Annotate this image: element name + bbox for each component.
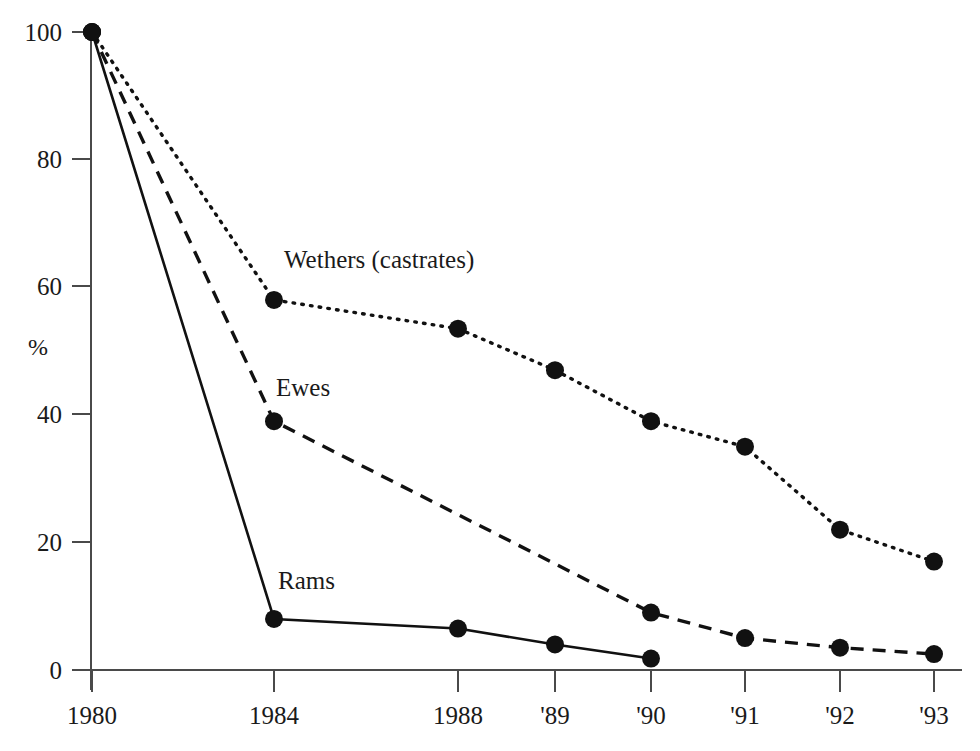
data-point-marker	[642, 650, 660, 668]
data-point-marker	[925, 645, 943, 663]
y-tick-label-100: 100	[25, 19, 63, 46]
x-tick-label-91: '91	[730, 702, 760, 729]
series-rams	[83, 23, 660, 668]
data-point-marker	[449, 320, 467, 338]
data-point-marker	[546, 361, 564, 379]
x-tick-label-1984: 1984	[249, 702, 300, 729]
data-point-marker	[449, 620, 467, 638]
y-tick-label-0: 0	[50, 657, 63, 684]
x-tick-label-1980: 1980	[67, 702, 117, 729]
y-axis-ticks	[72, 32, 91, 670]
x-tick-label-1988: 1988	[433, 702, 483, 729]
data-point-marker	[831, 521, 849, 539]
chart-figure: 100 80 60 40 20 0 % 1980 1984 1988 '89 '…	[0, 0, 980, 751]
series-line	[92, 32, 651, 659]
series-ewes	[83, 23, 943, 663]
x-axis-tick-labels: 1980 1984 1988 '89 '90 '91 '92 '93	[67, 702, 949, 729]
series-annotations: Wethers (castrates) Ewes Rams	[276, 246, 474, 594]
data-point-marker	[546, 635, 564, 653]
x-tick-label-90: '90	[636, 702, 666, 729]
series-layer	[83, 23, 943, 668]
x-tick-label-93: '93	[919, 702, 949, 729]
data-point-marker	[265, 291, 283, 309]
data-point-marker	[83, 23, 101, 41]
series-label-ewes: Ewes	[276, 374, 330, 401]
line-chart-canvas: 100 80 60 40 20 0 % 1980 1984 1988 '89 '…	[0, 0, 980, 751]
series-label-wethers: Wethers (castrates)	[284, 246, 474, 274]
y-tick-label-60: 60	[37, 273, 62, 300]
x-tick-label-92: '92	[825, 702, 855, 729]
x-tick-label-89: '89	[540, 702, 570, 729]
series-label-rams: Rams	[278, 567, 335, 594]
data-point-marker	[642, 412, 660, 430]
x-axis-ticks	[92, 670, 934, 692]
series-wethers-castrates	[83, 23, 943, 571]
data-point-marker	[736, 629, 754, 647]
y-tick-label-40: 40	[37, 401, 62, 428]
data-point-marker	[265, 412, 283, 430]
series-line	[92, 32, 934, 562]
y-tick-label-80: 80	[37, 146, 62, 173]
data-point-marker	[831, 639, 849, 657]
data-point-marker	[265, 610, 283, 628]
y-tick-label-20: 20	[37, 529, 62, 556]
data-point-marker	[642, 604, 660, 622]
y-axis-unit-label: %	[28, 334, 48, 360]
data-point-marker	[736, 438, 754, 456]
data-point-marker	[925, 553, 943, 571]
axes	[72, 26, 962, 690]
series-line	[92, 32, 934, 654]
